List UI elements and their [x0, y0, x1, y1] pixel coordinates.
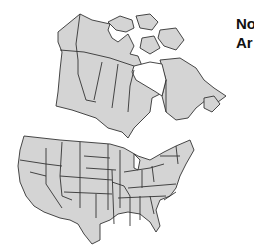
title-line-2: Ar [236, 33, 254, 52]
map-title: No Ar [236, 14, 254, 52]
title-line-1: No [236, 14, 254, 33]
canada-map [56, 14, 226, 138]
north-america-map [0, 0, 254, 249]
usa-map [18, 136, 194, 244]
